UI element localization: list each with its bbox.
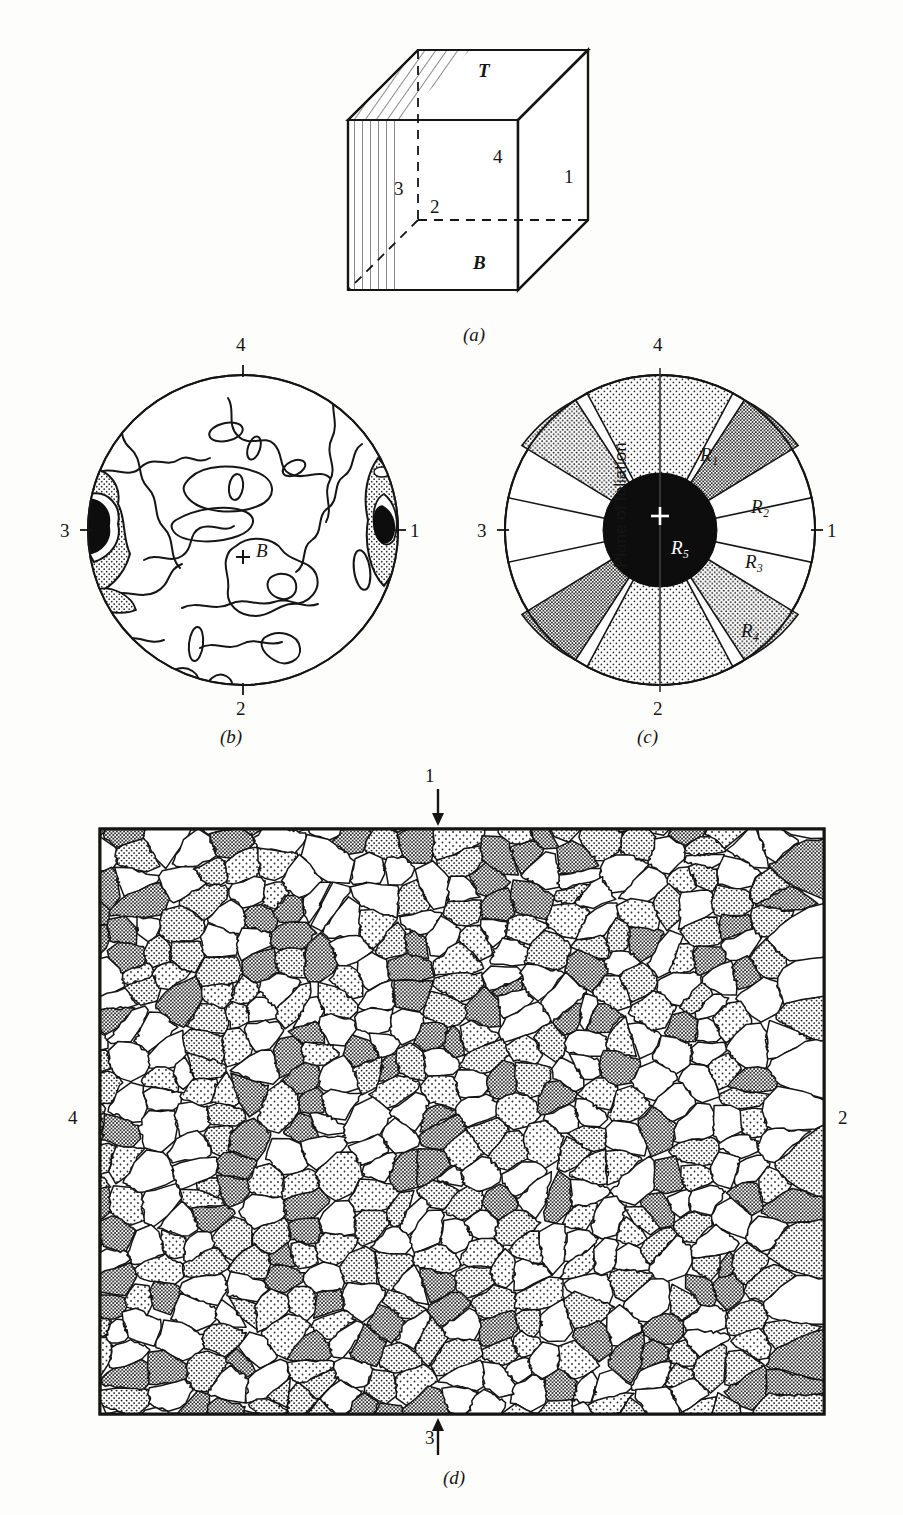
figure-page: T B 1 4 3 2 (a) <box>0 0 903 1515</box>
plane-of-foliation-label: Plane of foliation <box>611 442 631 568</box>
cube-face-label-front: 4 <box>493 146 503 168</box>
panel-c-axis-bottom: 2 <box>653 698 663 720</box>
panel-d-axis-right: 2 <box>838 1107 848 1129</box>
panel-d-caption: (d) <box>443 1467 465 1489</box>
panel-b-axis-left: 3 <box>60 520 70 542</box>
panel-b-contour-diagram: 4 2 3 1 B (b) <box>78 348 408 738</box>
bottom-arrow-icon <box>423 1417 453 1455</box>
cube-face-label-back: 2 <box>430 196 440 218</box>
sector-label-r5: R₅ <box>671 537 689 559</box>
panel-a-cube: T B 1 4 3 2 (a) <box>330 28 620 328</box>
sector-label-r4: R₄ <box>741 620 759 642</box>
sector-label-r1: R₁ <box>700 444 718 466</box>
panel-c-axis-right: 1 <box>827 520 837 542</box>
contour-diagram <box>78 348 408 708</box>
cube-face-label-left: 3 <box>394 178 404 200</box>
panel-b-axis-right: 1 <box>410 520 420 542</box>
cube-drawing <box>330 28 620 328</box>
panel-d-axis-left: 4 <box>68 1107 78 1129</box>
grain <box>290 1242 318 1269</box>
panel-d-axis-top: 1 <box>425 765 435 787</box>
grain <box>564 1030 608 1056</box>
panel-b-center-label: B <box>256 540 268 562</box>
panel-c-axis-top: 4 <box>653 334 663 356</box>
sector-label-r2: R₂ <box>751 496 769 518</box>
panel-b-axis-top: 4 <box>236 334 246 356</box>
grain-map <box>98 827 826 1416</box>
cube-face-label-bottom: B <box>473 252 486 274</box>
panel-a-caption: (a) <box>463 324 485 346</box>
cube-face-label-right: 1 <box>564 166 574 188</box>
panel-b-caption: (b) <box>220 726 242 748</box>
panel-b-axis-bottom: 2 <box>236 698 246 720</box>
panel-d-microstructure: 1 3 4 2 (d) <box>98 827 826 1416</box>
panel-c-sector-diagram: R₁ R₂ R₃ R₄ R₅ Plane of foliation 4 2 3 … <box>495 348 825 738</box>
panel-c-axis-left: 3 <box>477 520 487 542</box>
grain <box>355 1008 394 1034</box>
sector-diagram <box>495 348 825 708</box>
sector-label-r3: R₃ <box>745 551 763 573</box>
cube-face-label-top: T <box>478 60 490 82</box>
top-arrow-icon <box>423 789 453 827</box>
panel-c-caption: (c) <box>637 726 658 748</box>
grain <box>454 1070 488 1098</box>
